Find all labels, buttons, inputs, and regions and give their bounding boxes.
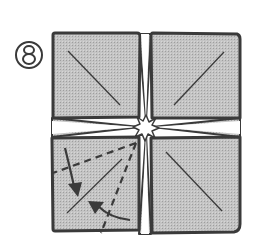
square-top-right	[151, 33, 240, 118]
step-number-badge	[16, 42, 42, 68]
square-bottom-left	[52, 137, 139, 233]
square-top-left	[53, 33, 140, 118]
square-bottom-right	[151, 137, 240, 233]
origami-diagram	[0, 0, 261, 249]
